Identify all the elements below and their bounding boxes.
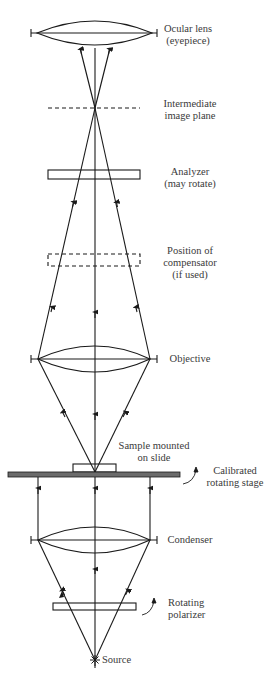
label-analyzer: Analyzer (may rotate) <box>158 166 222 190</box>
label-condenser: Condenser <box>165 534 215 546</box>
label-source: Source <box>102 654 138 666</box>
label-sample: Sample mounted on slide <box>114 440 194 464</box>
label-intermediate-image-plane: Intermediate image plane <box>158 98 222 122</box>
microscope-diagram <box>0 0 276 678</box>
condenser-lens <box>31 527 157 553</box>
label-ocular-lens: Ocular lens (eyepiece) <box>160 23 216 47</box>
label-polarizer: Rotating polarizer <box>168 597 212 621</box>
label-stage: Calibrated rotating stage <box>200 465 270 489</box>
label-objective: Objective <box>166 353 214 365</box>
stage-rotation-arrow-icon <box>183 467 198 484</box>
objective-lens <box>31 346 157 372</box>
label-compensator: Position of compensator (if used) <box>158 245 222 281</box>
analyzer <box>48 170 140 179</box>
source-icon <box>90 655 100 666</box>
polarizer-rotation-arrow-icon <box>142 598 156 615</box>
rotating-stage <box>8 472 180 477</box>
ocular-lens <box>31 21 157 45</box>
